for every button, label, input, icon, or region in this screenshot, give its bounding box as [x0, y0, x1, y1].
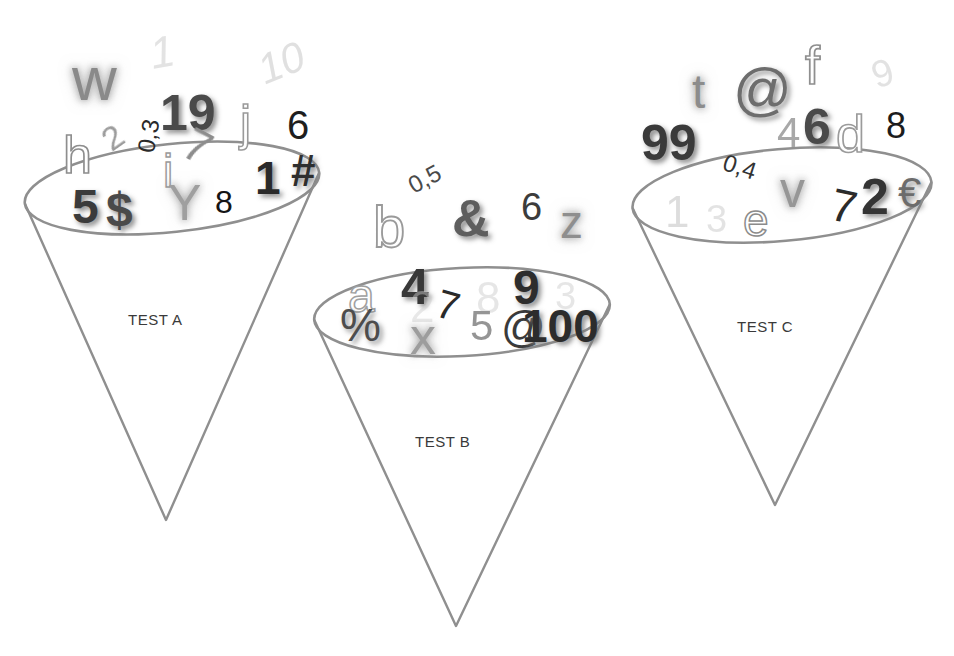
glyph-a-6: h — [63, 129, 92, 181]
glyph-a-8: 0,3 — [134, 117, 163, 154]
glyph-b-4: z — [560, 199, 583, 245]
glyph-b-2: & — [452, 192, 490, 244]
glyph-b-1: b — [373, 198, 405, 256]
glyph-c-6: 6 — [803, 102, 831, 152]
glyph-a-0: w — [72, 48, 117, 110]
glyph-a-14: 8 — [215, 186, 233, 218]
glyph-a-3: 10 — [252, 35, 311, 91]
glyph-a-1: 1 — [146, 28, 178, 76]
glyph-b-16: 100 — [522, 303, 599, 349]
floating-glyphs-layer: w11910j6h20,37i5$Y81#0,5b&6za427893%x5@1… — [0, 0, 954, 656]
glyph-c-14: 3 — [706, 200, 727, 238]
glyph-a-15: 1 — [255, 155, 281, 201]
glyph-a-13: Y — [168, 178, 201, 228]
glyph-c-12: € — [898, 172, 921, 214]
glyph-a-11: 5 — [72, 183, 99, 231]
glyph-c-3: 9 — [867, 52, 899, 95]
illustration-canvas: w11910j6h20,37i5$Y81#0,5b&6za427893%x5@1… — [0, 0, 954, 656]
glyph-b-0: 0,5 — [404, 161, 445, 198]
glyph-a-7: 2 — [95, 118, 130, 157]
cone-label-test-c: TEST C — [737, 318, 793, 335]
glyph-c-15: e — [743, 197, 769, 243]
glyph-c-4: 99 — [641, 118, 697, 168]
glyph-c-5: 4 — [777, 112, 800, 154]
glyph-b-14: 5 — [470, 305, 493, 347]
glyph-a-16: # — [291, 149, 315, 193]
glyph-a-12: $ — [106, 186, 133, 234]
glyph-c-0: t — [692, 68, 705, 116]
glyph-c-11: 2 — [861, 172, 889, 222]
glyph-b-8: 7 — [432, 283, 464, 328]
glyph-c-16: 7 — [826, 181, 861, 231]
glyph-a-4: j — [240, 98, 251, 148]
cone-label-test-a: TEST A — [128, 311, 182, 328]
glyph-c-10: v — [780, 165, 805, 215]
glyph-b-12: % — [340, 302, 381, 348]
glyph-a-5: 6 — [287, 105, 309, 145]
glyph-b-3: 6 — [521, 188, 542, 226]
glyph-c-13: 1 — [665, 190, 689, 234]
glyph-c-9: 0,4 — [720, 150, 759, 183]
glyph-c-2: f — [805, 38, 820, 92]
glyph-b-13: x — [410, 310, 436, 362]
glyph-c-7: d — [836, 108, 865, 160]
cone-label-test-b: TEST B — [415, 433, 470, 450]
glyph-c-8: 8 — [886, 108, 906, 144]
